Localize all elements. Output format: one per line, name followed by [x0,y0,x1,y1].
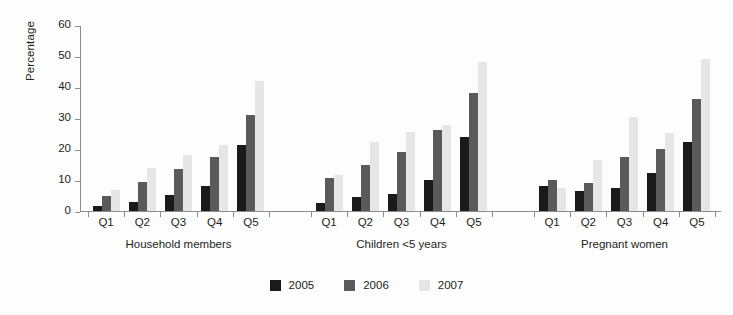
bar-2006-pregnant-women-Q1 [548,180,557,211]
x-axis-category-label: Q5 [454,216,494,228]
bar-2005-household-members-Q5 [237,145,246,211]
bar-2006-pregnant-women-Q4 [656,149,665,211]
bar-2006-children-5-years-Q4 [433,130,442,211]
bar-2007-children-5-years-Q4 [442,125,451,211]
group-label: Children <5 years [302,238,502,250]
bar-2007-children-5-years-Q2 [370,142,379,211]
bar-2007-household-members-Q4 [219,145,228,211]
bar-2007-pregnant-women-Q5 [701,59,710,211]
x-axis-category-label: Q1 [309,216,349,228]
y-axis-tick [75,181,80,182]
bar-2005-children-5-years-Q4 [424,180,433,211]
bar-2007-children-5-years-Q3 [406,132,415,211]
x-axis-category-label: Q3 [159,216,199,228]
legend-label: 2005 [289,279,315,291]
bar-2006-pregnant-women-Q3 [620,157,629,211]
bar-2006-household-members-Q2 [138,182,147,211]
bar-2007-pregnant-women-Q3 [629,117,638,211]
bar-2006-children-5-years-Q3 [397,152,406,211]
bar-2006-household-members-Q3 [174,169,183,211]
bar-2007-children-5-years-Q5 [478,62,487,211]
y-axis-tick-label: 60 [31,18,71,30]
legend-label: 2007 [438,279,464,291]
y-axis-tick [75,26,80,27]
x-axis-category-label: Q3 [605,216,645,228]
x-axis-category-label: Q4 [195,216,235,228]
bar-2007-pregnant-women-Q1 [557,188,566,211]
bar-2007-pregnant-women-Q4 [665,133,674,211]
legend-label: 2006 [363,279,389,291]
bar-2006-household-members-Q1 [102,196,111,212]
legend-item-2007: 2007 [419,279,464,291]
bar-2006-children-5-years-Q5 [469,93,478,211]
bar-2005-children-5-years-Q5 [460,137,469,211]
bar-2007-household-members-Q5 [255,81,264,211]
y-axis-tick-label: 40 [31,80,71,92]
x-axis-category-label: Q5 [677,216,717,228]
bar-2006-household-members-Q4 [210,157,219,211]
x-axis-category-label: Q1 [532,216,572,228]
x-axis-category-label: Q4 [641,216,681,228]
x-axis-category-label: Q2 [122,216,162,228]
bar-2005-household-members-Q3 [165,195,174,211]
y-axis-tick [75,150,80,151]
y-axis-tick-label: 10 [31,173,71,185]
y-axis-line [80,26,81,212]
grouped-bar-chart: Percentage 0102030405060 200520062007 Q1… [0,0,733,315]
bar-2006-household-members-Q5 [246,115,255,211]
x-axis-category-label: Q2 [568,216,608,228]
bar-2005-pregnant-women-Q4 [647,173,656,211]
legend-swatch-icon [344,280,355,291]
bar-2006-children-5-years-Q1 [325,178,334,211]
y-axis-tick [75,212,80,213]
y-axis-tick-label: 30 [31,111,71,123]
bar-2005-pregnant-women-Q1 [539,186,548,211]
bar-2005-household-members-Q4 [201,186,210,211]
bar-2005-children-5-years-Q2 [352,197,361,211]
bar-2005-pregnant-women-Q3 [611,188,620,211]
x-axis-category-label: Q2 [345,216,385,228]
chart-legend: 200520062007 [0,279,733,291]
bar-2007-pregnant-women-Q2 [593,160,602,211]
bar-2005-children-5-years-Q3 [388,194,397,211]
y-axis-tick-label: 20 [31,142,71,154]
legend-swatch-icon [419,280,430,291]
y-axis-tick-label: 50 [31,49,71,61]
legend-swatch-icon [270,280,281,291]
bar-2006-pregnant-women-Q5 [692,99,701,211]
bar-2005-household-members-Q1 [93,206,102,211]
plot-area: 0102030405060 [80,26,721,212]
bar-2005-household-members-Q2 [129,202,138,211]
x-axis-category-label: Q5 [231,216,271,228]
x-axis-category-label: Q3 [382,216,422,228]
y-axis-tick [75,119,80,120]
legend-item-2005: 2005 [270,279,315,291]
group-label: Household members [79,238,279,250]
bar-2007-household-members-Q1 [111,190,120,211]
x-axis-category-label: Q1 [86,216,126,228]
bar-2007-household-members-Q3 [183,155,192,211]
bar-2005-pregnant-women-Q2 [575,191,584,211]
group-label: Pregnant women [525,238,725,250]
bar-2006-pregnant-women-Q2 [584,183,593,211]
x-axis-category-label: Q4 [418,216,458,228]
bar-2005-children-5-years-Q1 [316,203,325,211]
bar-2005-pregnant-women-Q5 [683,142,692,211]
y-axis-tick-label: 0 [31,204,71,216]
y-axis-tick [75,88,80,89]
bar-2007-household-members-Q2 [147,168,156,211]
legend-item-2006: 2006 [344,279,389,291]
bar-2007-children-5-years-Q1 [334,175,343,211]
y-axis-tick [75,57,80,58]
x-axis-line [80,211,721,212]
bar-2006-children-5-years-Q2 [361,165,370,211]
